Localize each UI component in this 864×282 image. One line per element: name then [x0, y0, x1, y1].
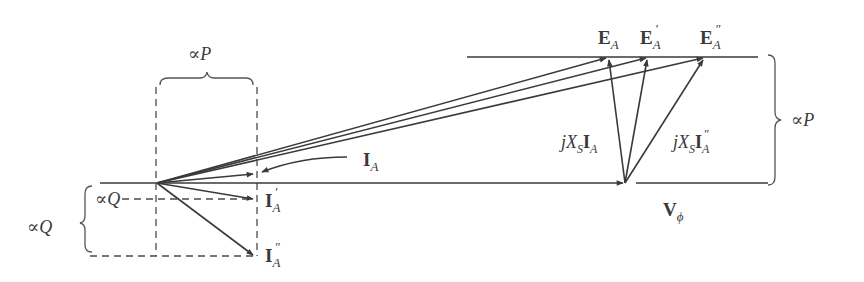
ia-label: IA [363, 149, 378, 174]
ea-vector [157, 58, 606, 183]
jxs-ia-label: jXSIA [559, 132, 598, 156]
ia-prime-vector [157, 183, 253, 199]
left-brace-label: ∝Q [27, 217, 52, 237]
ia-pointer-arrow [262, 157, 347, 172]
ia-prime-label: IA′ [265, 184, 280, 215]
right-brace-label: ∝P [791, 110, 814, 130]
top-brace [160, 72, 253, 85]
top-brace-label: ∝P [188, 44, 211, 64]
left-brace [80, 186, 92, 252]
vphi-label: Vϕ [663, 199, 684, 224]
ia-double-prime-vector [157, 183, 253, 255]
jxs-ia-double-prime-label: jXSIA″ [671, 127, 710, 156]
phasor-diagram: ∝P ∝P ∝Q ∝Q EA EA′ EA″ IA IA′ IA″ Vϕ [0, 0, 864, 282]
ea-prime-vector [157, 58, 646, 183]
ea-label: EA [598, 27, 619, 52]
ea-double-prime-label: EA″ [700, 21, 721, 52]
ea-double-prime-vector [157, 58, 703, 183]
right-brace [768, 55, 781, 185]
inner-q-label: ∝Q [95, 189, 120, 209]
ea-prime-label: EA′ [640, 21, 661, 52]
ia-double-prime-label: IA″ [265, 239, 281, 270]
